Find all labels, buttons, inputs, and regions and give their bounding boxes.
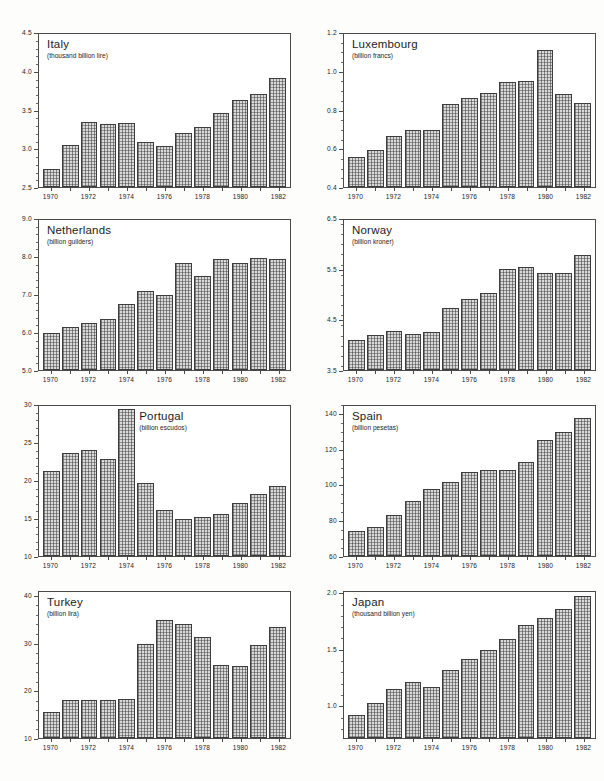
x-tick: [584, 188, 585, 191]
bar: [537, 50, 554, 187]
x-tick: [565, 371, 566, 374]
x-tick-label: 1970: [43, 376, 58, 383]
y-minor-tick: [36, 95, 39, 96]
y-minor-tick: [36, 672, 39, 673]
y-axis-italy: 2.53.03.54.04.5: [2, 33, 38, 188]
y-major-tick: [34, 596, 38, 597]
bar: [442, 104, 459, 187]
bar: [194, 127, 211, 187]
x-tick: [260, 557, 261, 560]
bar: [250, 94, 267, 187]
x-tick-label: 1974: [119, 376, 134, 383]
y-major-tick: [34, 644, 38, 645]
bar: [442, 670, 459, 738]
x-tick: [413, 371, 414, 374]
bar: [348, 157, 365, 187]
bar: [386, 515, 403, 556]
y-tick-label: 10: [24, 736, 32, 743]
x-tick-label: 1978: [500, 562, 515, 569]
x-tick-label: 1972: [386, 744, 401, 751]
x-tick: [108, 188, 109, 191]
x-tick: [184, 188, 185, 191]
bar: [518, 625, 535, 738]
x-tick: [127, 188, 128, 191]
x-tick: [89, 371, 90, 374]
y-minor-tick: [36, 80, 39, 81]
y-minor-tick: [36, 303, 39, 304]
y-tick-label: 2.5: [22, 185, 32, 192]
y-minor-tick: [36, 287, 39, 288]
y-tick-label: 3.0: [22, 146, 32, 153]
y-minor-tick: [36, 242, 39, 243]
x-tick-label: 1976: [462, 376, 477, 383]
bar: [423, 332, 440, 371]
bar: [43, 169, 60, 187]
y-minor-tick: [36, 180, 39, 181]
bar: [62, 145, 79, 187]
x-tick: [394, 188, 395, 191]
bar: [555, 609, 572, 738]
y-minor-tick: [341, 477, 344, 478]
y-major-tick: [339, 485, 343, 486]
y-tick-label: 10: [24, 554, 32, 561]
x-tick-label: 1972: [81, 744, 96, 751]
x-tick-label: 1976: [157, 193, 172, 200]
y-minor-tick: [341, 120, 344, 121]
x-tick: [432, 188, 433, 191]
x-tick: [375, 739, 376, 742]
y-tick-label: 4.5: [22, 30, 32, 37]
bar: [194, 637, 211, 738]
x-tick: [89, 188, 90, 191]
y-minor-tick: [341, 169, 344, 170]
x-tick: [508, 557, 509, 560]
y-tick-label: 0.4: [327, 185, 337, 192]
x-tick-label: 1980: [538, 193, 553, 200]
x-axis-luxembourg: 1970197219741976197819801982: [343, 188, 596, 208]
bar: [62, 327, 79, 370]
plot-area-spain: [343, 405, 596, 557]
x-tick: [127, 739, 128, 742]
bar: [537, 440, 554, 556]
y-minor-tick: [36, 103, 39, 104]
x-tick: [394, 739, 395, 742]
bar: [213, 514, 230, 556]
y-major-tick: [34, 333, 38, 334]
y-minor-tick: [36, 473, 39, 474]
bar: [574, 418, 591, 556]
y-minor-tick: [341, 336, 344, 337]
y-minor-tick: [36, 653, 39, 654]
x-tick: [127, 371, 128, 374]
x-tick-label: 1978: [195, 562, 210, 569]
y-minor-tick: [36, 534, 39, 535]
x-axis-italy: 1970197219741976197819801982: [38, 188, 291, 208]
y-major-tick: [34, 405, 38, 406]
bar: [232, 503, 249, 556]
y-minor-tick: [36, 234, 39, 235]
y-tick-label: 6.5: [327, 216, 337, 223]
x-tick: [451, 739, 452, 742]
bar: [499, 470, 516, 556]
x-tick-label: 1972: [386, 376, 401, 383]
y-minor-tick: [36, 280, 39, 281]
x-tick: [394, 371, 395, 374]
x-tick-label: 1982: [576, 744, 591, 751]
x-tick: [470, 557, 471, 560]
y-minor-tick: [36, 56, 39, 57]
bar: [194, 276, 211, 370]
y-minor-tick: [341, 81, 344, 82]
x-tick: [279, 188, 280, 191]
y-minor-tick: [341, 459, 344, 460]
y-major-tick: [339, 706, 343, 707]
x-tick: [546, 371, 547, 374]
x-axis-netherlands: 1970197219741976197819801982: [38, 371, 291, 391]
x-tick-label: 1980: [233, 193, 248, 200]
bar: [518, 462, 535, 556]
bar: [480, 293, 497, 371]
bar: [405, 130, 422, 187]
x-tick-label: 1982: [271, 562, 286, 569]
x-tick-label: 1974: [119, 744, 134, 751]
x-tick: [222, 188, 223, 191]
y-minor-tick: [36, 310, 39, 311]
x-tick: [146, 188, 147, 191]
x-tick: [470, 188, 471, 191]
